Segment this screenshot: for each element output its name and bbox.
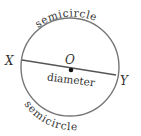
center-point xyxy=(69,68,74,73)
endpoint-x-label: X xyxy=(4,54,14,68)
top-semicircle-text: semicircle xyxy=(32,6,99,29)
endpoint-y-label: Y xyxy=(120,74,129,88)
center-label: O xyxy=(65,53,75,67)
diameter-label: diameter xyxy=(47,70,97,88)
bottom-semicircle-text: semicircle xyxy=(22,98,78,132)
circle-diagram: O X Y diameter semicircle semicircle xyxy=(0,0,141,136)
top-semicircle-label: semicircle xyxy=(32,6,99,29)
diagram-canvas: O X Y diameter semicircle semicircle xyxy=(0,0,141,136)
bottom-semicircle-label: semicircle xyxy=(22,98,78,132)
circle-outline xyxy=(21,18,119,116)
